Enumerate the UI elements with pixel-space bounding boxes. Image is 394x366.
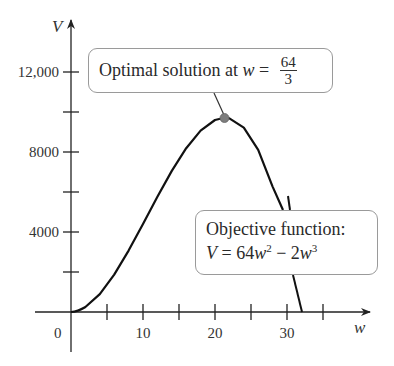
x-tick-label-30: 30 <box>280 325 295 341</box>
optimal-callout-fraction: 64 3 <box>280 54 297 87</box>
objective-leader-line-bottom <box>293 275 302 312</box>
y-axis-label: V <box>52 17 65 36</box>
equation-exp2: 3 <box>312 242 318 254</box>
optimal-point-marker <box>220 114 229 123</box>
y-tick-label-8000: 8000 <box>29 144 59 160</box>
fraction-denominator: 3 <box>284 71 292 87</box>
objective-callout-title: Objective function: <box>206 217 377 241</box>
objective-function-callout: Objective function: V = 64w2 − 2w3 <box>195 210 378 275</box>
equation-lhs: V <box>206 243 217 263</box>
optimal-callout-var: w <box>243 60 255 81</box>
origin-label: 0 <box>54 325 62 341</box>
x-tick-label-10: 10 <box>136 325 151 341</box>
y-tick-label-12000: 12,000 <box>18 64 59 80</box>
objective-leader-line-top <box>288 196 290 210</box>
objective-callout-equation: V = 64w2 − 2w3 <box>206 241 377 265</box>
optimal-callout-eq: = <box>255 60 274 81</box>
optimal-solution-callout: Optimal solution at w = 64 3 <box>88 48 333 93</box>
optimal-leader-line <box>214 93 224 115</box>
equation-minus: − 2 <box>272 243 300 263</box>
fraction-numerator: 64 <box>280 54 297 71</box>
x-axis-label: w <box>354 318 366 337</box>
equation-w1: w <box>254 243 266 263</box>
equation-w2: w <box>300 243 312 263</box>
y-tick-label-4000: 4000 <box>29 224 59 240</box>
optimal-callout-prefix: Optimal solution at <box>99 60 243 81</box>
x-tick-label-20: 20 <box>208 325 223 341</box>
equation-eq: = 64 <box>217 243 254 263</box>
